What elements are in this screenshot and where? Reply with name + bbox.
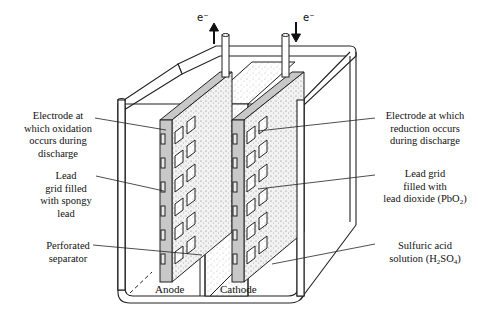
label-line: grid filled [36, 183, 96, 196]
label-formula-line: solution (H2SO4) [377, 253, 473, 269]
label-line: reduction occurs [377, 123, 473, 136]
label-line: filled with [377, 181, 473, 194]
label-line: discharge [20, 148, 96, 161]
anode-electron-label: e⁻ [197, 12, 208, 23]
anode-label: Anode [155, 283, 184, 295]
label-line: during discharge [377, 135, 473, 148]
anode-terminal [222, 34, 229, 78]
electron-flow-up-arrow-icon [210, 23, 219, 44]
label-line: with spongy [36, 195, 96, 208]
label-anode-grid: Lead grid filled with spongy lead [36, 170, 96, 220]
label-line: Perforated [40, 240, 96, 253]
cathode-terminal [282, 34, 289, 78]
cathode-electron-label: e⁻ [303, 12, 314, 23]
label-line: separator [40, 253, 96, 266]
label-line: lead [36, 208, 96, 221]
label-cathode-grid: Lead grid filled with lead dioxide (PbO2… [377, 168, 473, 209]
cathode-label: Cathode [220, 283, 257, 295]
label-anode-electrode: Electrode at which oxidation occurs duri… [20, 110, 96, 160]
electron-flow-down-arrow-icon [292, 22, 301, 42]
label-cathode-electrode: Electrode at which reduction occurs duri… [377, 110, 473, 148]
label-line: Sulfuric acid [377, 240, 473, 253]
label-line: Electrode at [20, 110, 96, 123]
label-line: Lead [36, 170, 96, 183]
label-electrolyte: Sulfuric acid solution (H2SO4) [377, 240, 473, 268]
label-line: Lead grid [377, 168, 473, 181]
label-line: occurs during [20, 135, 96, 148]
label-line: which oxidation [20, 123, 96, 136]
label-line: Electrode at which [377, 110, 473, 123]
dashed-arrow-icon [130, 272, 152, 293]
label-formula-line: lead dioxide (PbO2) [377, 193, 473, 209]
label-separator: Perforated separator [40, 240, 96, 265]
